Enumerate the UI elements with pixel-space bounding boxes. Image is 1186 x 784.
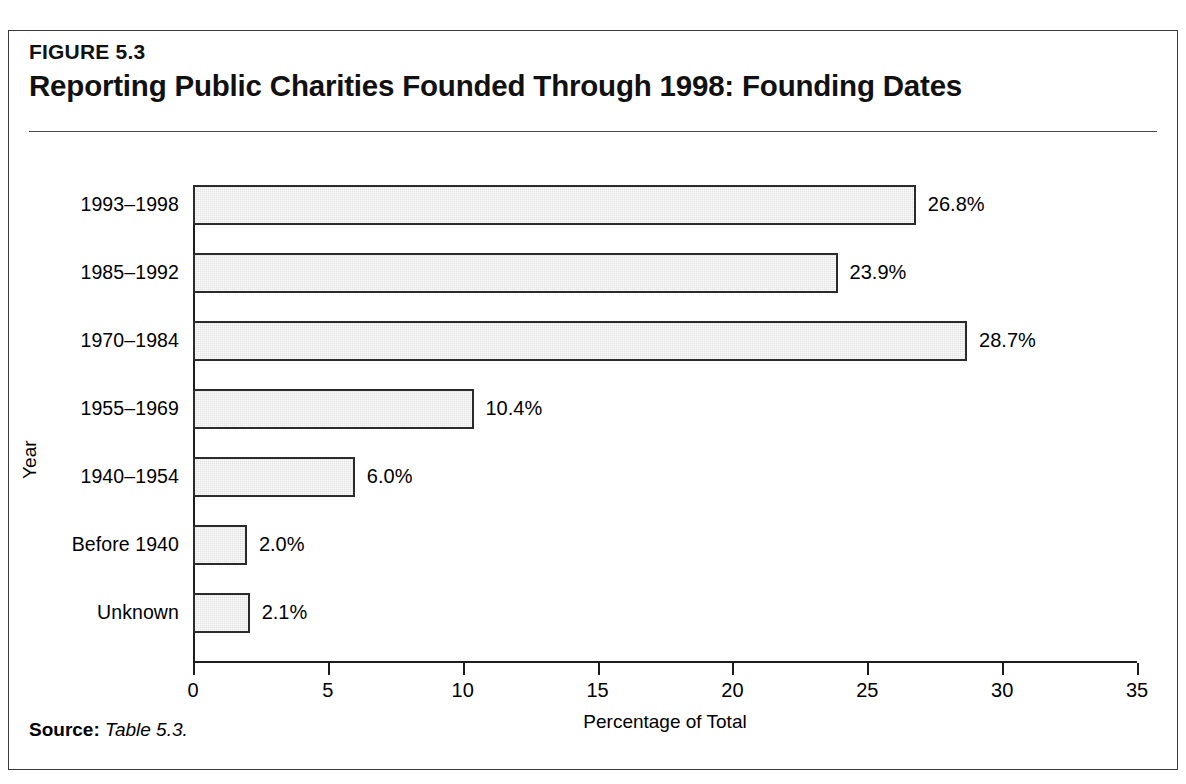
source-note: Source: Table 5.3. [29,719,188,741]
x-tick-mark [1137,663,1139,675]
title-divider [29,131,1157,132]
x-tick-mark [1002,663,1004,675]
bar-value-label: 28.7% [979,329,1036,352]
bar[interactable] [193,593,250,633]
bar-row: 1985–199223.9% [9,253,1179,293]
x-axis-line [193,661,1137,663]
category-label: Before 1940 [72,533,179,556]
category-label: 1970–1984 [80,329,179,352]
bar[interactable] [193,321,967,361]
x-tick-label: 25 [837,679,897,702]
x-tick-label: 0 [163,679,223,702]
category-label: 1993–1998 [80,193,179,216]
bar-value-label: 2.0% [259,533,305,556]
x-tick-mark [598,663,600,675]
source-label: Source: [29,719,100,740]
x-tick-label: 15 [568,679,628,702]
category-label: 1940–1954 [80,465,179,488]
figure-container: FIGURE 5.3 Reporting Public Charities Fo… [8,30,1178,770]
figure-header: FIGURE 5.3 Reporting Public Charities Fo… [29,39,1159,105]
x-tick-label: 30 [972,679,1032,702]
bar[interactable] [193,253,838,293]
bar-row: 1993–199826.8% [9,185,1179,225]
plot-area: 1993–199826.8%1985–199223.9%1970–198428.… [9,139,1179,699]
bar-value-label: 26.8% [928,193,985,216]
x-tick-mark [463,663,465,675]
bar-value-label: 2.1% [262,601,308,624]
bar-value-label: 23.9% [850,261,907,284]
x-tick-label: 35 [1107,679,1167,702]
bar-row: Before 19402.0% [9,525,1179,565]
bar-row: 1970–198428.7% [9,321,1179,361]
figure-number: FIGURE 5.3 [29,39,1159,65]
x-tick-label: 20 [702,679,762,702]
category-label: 1985–1992 [80,261,179,284]
x-tick-mark [193,663,195,675]
bar-value-label: 10.4% [486,397,543,420]
bar-row: 1940–19546.0% [9,457,1179,497]
category-label: 1955–1969 [80,397,179,420]
category-label: Unknown [97,601,179,624]
x-tick-mark [867,663,869,675]
source-text: Table 5.3. [105,719,188,740]
figure-title: Reporting Public Charities Founded Throu… [29,67,1159,105]
x-tick-mark [732,663,734,675]
x-tick-label: 5 [298,679,358,702]
bar[interactable] [193,525,247,565]
bar-row: 1955–196910.4% [9,389,1179,429]
bar-value-label: 6.0% [367,465,413,488]
x-tick-mark [328,663,330,675]
bar-row: Unknown2.1% [9,593,1179,633]
bar[interactable] [193,457,355,497]
chart-area: Year 1993–199826.8%1985–199223.9%1970–19… [9,139,1179,699]
bar[interactable] [193,389,474,429]
x-tick-label: 10 [433,679,493,702]
bar[interactable] [193,185,916,225]
x-axis-title: Percentage of Total [193,711,1137,733]
